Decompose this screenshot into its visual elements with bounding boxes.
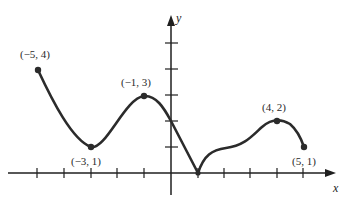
point-5-1 bbox=[301, 144, 307, 150]
x-axis-arrow-icon bbox=[325, 169, 336, 177]
label-point-neg3-1: (−3, 1) bbox=[71, 155, 101, 168]
y-axis-label: y bbox=[175, 11, 182, 25]
point-1-0 bbox=[195, 170, 200, 175]
label-point-5-1: (5, 1) bbox=[292, 155, 316, 168]
point-neg5-4 bbox=[35, 67, 41, 73]
label-point-neg5-4: (−5, 4) bbox=[20, 48, 50, 61]
function-graph: x y (−5, 4) (−3, 1) (−1, 3) (4, 2) (5, 1… bbox=[0, 0, 350, 204]
x-axis-label: x bbox=[332, 181, 339, 195]
label-point-4-2: (4, 2) bbox=[262, 101, 286, 114]
label-point-neg1-3: (−1, 3) bbox=[121, 76, 151, 89]
x-axis: x bbox=[8, 168, 339, 195]
y-axis: y bbox=[165, 11, 182, 195]
point-4-2 bbox=[274, 118, 280, 124]
point-neg1-3 bbox=[141, 93, 147, 99]
point-neg3-1 bbox=[88, 144, 94, 150]
y-axis-arrow-icon bbox=[167, 15, 175, 26]
